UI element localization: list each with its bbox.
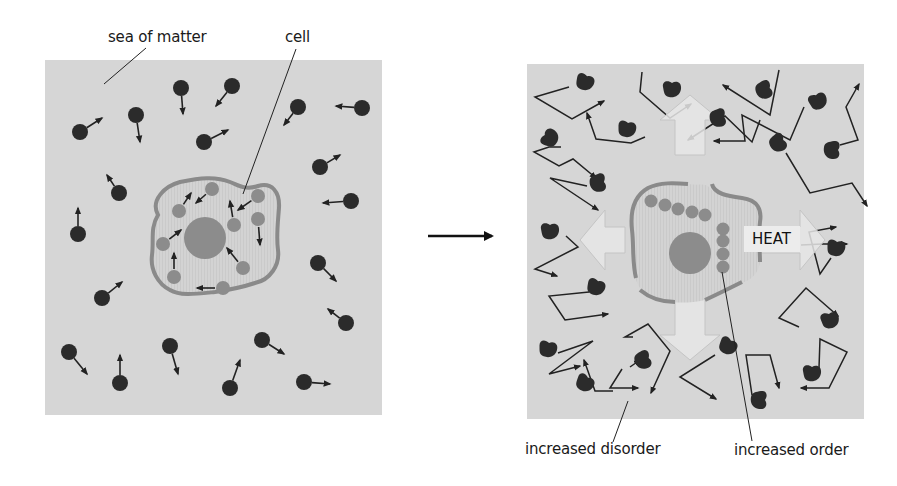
ordered-organelle bbox=[717, 261, 730, 274]
right-panel-disorder bbox=[527, 64, 867, 419]
molecule bbox=[94, 290, 110, 306]
molecule bbox=[70, 226, 86, 242]
molecule bbox=[128, 107, 144, 123]
ordered-organelle bbox=[672, 203, 685, 216]
ordered-organelle bbox=[686, 206, 699, 219]
label-increased-order: increased order bbox=[734, 441, 849, 459]
molecule bbox=[254, 332, 270, 348]
ordered-organelle bbox=[659, 199, 672, 212]
molecule bbox=[72, 124, 88, 140]
molecule bbox=[310, 255, 326, 271]
ordered-organelle bbox=[717, 223, 730, 236]
molecule bbox=[112, 375, 128, 391]
molecule bbox=[224, 78, 240, 94]
organelle bbox=[216, 281, 230, 295]
organelle bbox=[251, 189, 265, 203]
left-panel-sea-of-matter bbox=[45, 60, 382, 415]
cell-nucleus bbox=[669, 232, 711, 274]
organelle bbox=[167, 270, 181, 284]
organelle bbox=[227, 218, 241, 232]
organelle bbox=[251, 212, 265, 226]
cell-nucleus bbox=[184, 217, 226, 259]
organelle bbox=[172, 204, 186, 218]
ordered-organelle bbox=[645, 195, 658, 208]
molecule bbox=[290, 99, 306, 115]
organelle bbox=[205, 182, 219, 196]
molecule bbox=[196, 134, 212, 150]
organelle bbox=[236, 261, 250, 275]
label-cell: cell bbox=[285, 28, 310, 46]
molecule bbox=[338, 315, 354, 331]
molecule bbox=[343, 193, 359, 209]
label-increased-disorder: increased disorder bbox=[525, 440, 660, 458]
molecule bbox=[173, 80, 189, 96]
molecule bbox=[312, 159, 328, 175]
ordered-organelle bbox=[717, 248, 730, 261]
molecule bbox=[111, 185, 127, 201]
molecule bbox=[296, 374, 312, 390]
label-sea-of-matter: sea of matter bbox=[108, 28, 207, 46]
ordered-organelle bbox=[717, 235, 730, 248]
molecule bbox=[162, 338, 178, 354]
molecule bbox=[354, 100, 370, 116]
ordered-organelle bbox=[699, 209, 712, 222]
molecule bbox=[222, 380, 238, 396]
molecule bbox=[61, 344, 77, 360]
label-heat: HEAT bbox=[752, 230, 791, 248]
organelle bbox=[156, 237, 170, 251]
